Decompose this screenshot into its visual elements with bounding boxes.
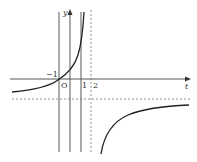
x-axis-label: t: [185, 82, 189, 91]
curve-right-branch: [101, 105, 189, 154]
y-axis-label: y: [62, 8, 68, 17]
graph-canvas: y t O −1 1 2: [0, 0, 197, 162]
curve-left-branch: [12, 12, 84, 92]
tick-label-neg1: −1: [46, 70, 58, 79]
tick-label-1: 1: [82, 81, 87, 90]
x-axis-arrow-icon: [185, 77, 191, 82]
tick-label-2: 2: [93, 81, 98, 90]
y-axis-arrow-icon: [68, 9, 73, 15]
origin-label: O: [61, 81, 68, 90]
function-graph-figure: y t O −1 1 2: [0, 0, 197, 162]
